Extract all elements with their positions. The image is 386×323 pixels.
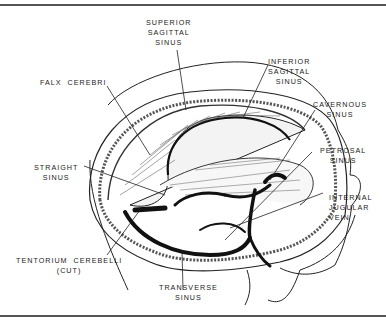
label-transverse-sinus: TRANSVERSE SINUS bbox=[159, 283, 218, 303]
leader-superior-sagittal bbox=[177, 50, 186, 110]
label-straight-sinus: STRAIGHT SINUS bbox=[34, 163, 78, 183]
label-tentorium-cerebelli: TENTORIUM CEREBELLI (CUT) bbox=[16, 256, 122, 276]
label-internal-jugular-vein: INTERNAL JUGULAR VEIN bbox=[329, 193, 373, 223]
label-superior-sagittal-sinus: SUPERIOR SAGITTAL SINUS bbox=[146, 18, 192, 48]
label-falx-cerebri: FALX CEREBRI bbox=[40, 78, 107, 88]
leader-straight bbox=[84, 166, 165, 195]
label-petrosal-sinus: PETROSAL SINUS bbox=[320, 146, 366, 166]
label-cavernous-sinus: CAVERNOUS SINUS bbox=[313, 100, 367, 120]
label-inferior-sagittal-sinus: INFERIOR SAGITTAL SINUS bbox=[268, 57, 310, 87]
